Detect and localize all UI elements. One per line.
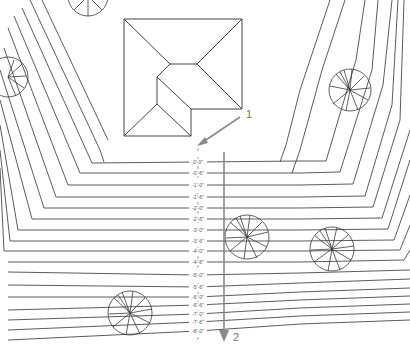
elevation-label: -1'-0": [192, 182, 204, 188]
elevation-label: -1'-6": [192, 194, 204, 200]
tree-center-icon: [225, 215, 269, 259]
callout-2-label: 2: [233, 331, 239, 343]
elevation-label: -4'-0": [192, 248, 204, 254]
tree-bottom-left-icon: [108, 291, 152, 335]
tree-right-icon: [310, 227, 354, 271]
elevation-labels: 0'-0"-0'-6"-1'-0"-1'-6"-2'-0"-2'-6"-3'-0…: [189, 148, 207, 345]
callout-1: 1: [197, 108, 252, 146]
elevation-label: -6'-0": [192, 294, 204, 300]
tree-top-partial-icon: [68, 0, 108, 16]
elevation-label: -3'-0": [192, 227, 204, 233]
elevation-label: -5'-0": [192, 272, 204, 278]
elevation-label: -7'-6": [192, 319, 204, 325]
trees: [0, 0, 371, 335]
elevation-label: -4'-6": [192, 259, 204, 265]
tree-top-right-icon: [329, 69, 371, 111]
elevation-label: -0'-6": [192, 170, 204, 176]
elevation-label: -3'-6": [192, 238, 204, 244]
elevation-label: -6'-6": [192, 302, 204, 308]
elevation-label: 0'-0": [193, 159, 203, 165]
elevation-label: -2'-0": [192, 205, 204, 211]
site-plan-drawing: 0'-0"-0'-6"-1'-0"-1'-6"-2'-0"-2'-6"-3'-0…: [0, 0, 410, 353]
callout-1-label: 1: [246, 108, 252, 120]
elevation-label: -7'-0": [192, 311, 204, 317]
elevation-label: -8'-0": [192, 328, 204, 334]
elevation-label: -2'-6": [192, 216, 204, 222]
elevation-label: -5'-6": [192, 284, 204, 290]
tree-left-edge-icon: [0, 57, 28, 97]
callout-2: 2: [219, 152, 239, 343]
roof-plan: [124, 19, 242, 136]
